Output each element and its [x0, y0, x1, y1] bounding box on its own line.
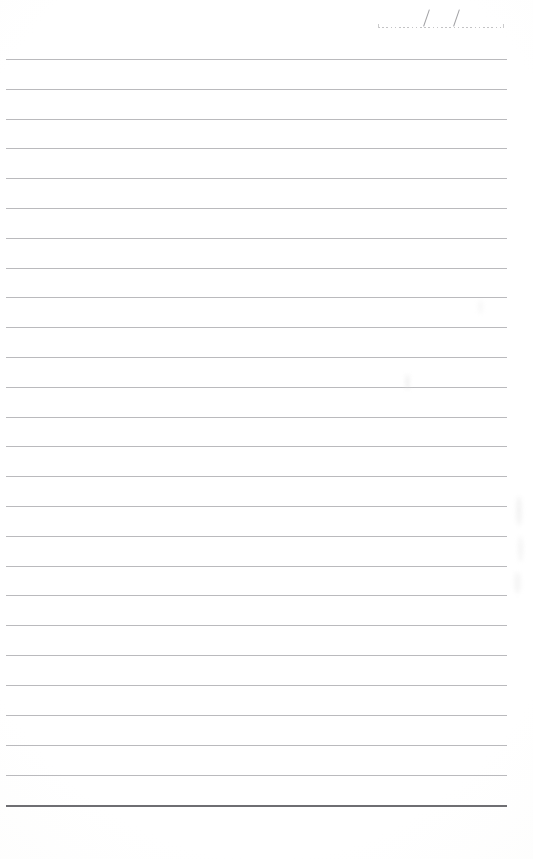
- writing-line[interactable]: [6, 745, 507, 746]
- writing-line[interactable]: [6, 715, 507, 716]
- writing-line[interactable]: [6, 775, 507, 776]
- writing-line[interactable]: [6, 268, 507, 269]
- writing-line[interactable]: [6, 387, 507, 388]
- writing-line[interactable]: [6, 595, 507, 596]
- writing-line[interactable]: [6, 655, 507, 656]
- writing-line[interactable]: [6, 327, 507, 328]
- writing-line[interactable]: [6, 357, 507, 358]
- writing-line[interactable]: [6, 685, 507, 686]
- writing-line[interactable]: [6, 476, 507, 477]
- writing-line[interactable]: [6, 148, 507, 149]
- writing-line[interactable]: [6, 625, 507, 626]
- writing-line[interactable]: [6, 119, 507, 120]
- writing-line[interactable]: [6, 178, 507, 179]
- bottom-rule[interactable]: [6, 805, 507, 807]
- notepad-page: Blank lined notepad page: [0, 0, 533, 859]
- writing-line[interactable]: [6, 89, 507, 90]
- writing-line[interactable]: [6, 297, 507, 298]
- writing-line[interactable]: [6, 417, 507, 418]
- writing-line[interactable]: [6, 208, 507, 209]
- writing-line[interactable]: [6, 59, 507, 60]
- writing-line[interactable]: [6, 566, 507, 567]
- writing-line[interactable]: [6, 506, 507, 507]
- writing-line[interactable]: [6, 446, 507, 447]
- writing-line[interactable]: [6, 238, 507, 239]
- writing-line[interactable]: [6, 536, 507, 537]
- ruled-lines: [0, 0, 533, 859]
